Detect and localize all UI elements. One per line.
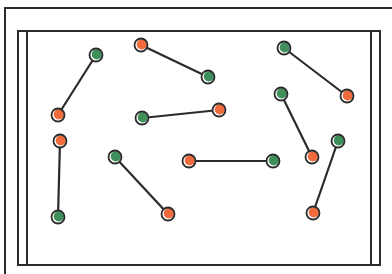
dot-pair xyxy=(183,155,280,168)
connector-line xyxy=(115,157,168,214)
matched-pairs-diagram xyxy=(0,0,392,274)
dot-pair xyxy=(136,104,226,125)
dot-pair xyxy=(135,39,215,84)
dot-pair xyxy=(275,88,319,164)
dot-pair xyxy=(307,135,345,220)
dot-pair xyxy=(52,49,103,122)
connector-line xyxy=(284,48,347,96)
connector-line xyxy=(142,110,219,118)
dot-pair xyxy=(52,135,67,224)
connector-line xyxy=(281,94,312,157)
connector-line xyxy=(58,141,60,217)
dot-pair xyxy=(278,42,354,103)
connector-line xyxy=(58,55,96,115)
dot-pair xyxy=(109,151,175,221)
pairs-layer xyxy=(52,39,354,224)
diagram-canvas xyxy=(0,0,392,274)
connector-line xyxy=(141,45,208,77)
